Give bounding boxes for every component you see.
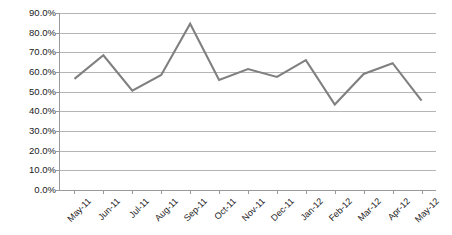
y-axis-tick-label: 70.0% <box>0 47 56 57</box>
y-axis-tick-labels: 90.0%80.0%70.0%60.0%50.0%40.0%30.0%20.0%… <box>0 0 56 200</box>
data-series-group <box>60 13 436 190</box>
x-axis-tick-label: May-11 <box>2 196 94 235</box>
y-axis-tick-label: 50.0% <box>0 87 56 97</box>
series-line-1 <box>74 24 421 105</box>
y-axis-tick-label: 90.0% <box>0 8 56 18</box>
y-axis-tick-label: 60.0% <box>0 67 56 77</box>
plot-area <box>60 13 436 190</box>
line-chart: 90.0%80.0%70.0%60.0%50.0%40.0%30.0%20.0%… <box>0 0 452 235</box>
y-axis-tick-label: 30.0% <box>0 126 56 136</box>
y-axis-tick-label: 10.0% <box>0 165 56 175</box>
y-axis-tick-label: 20.0% <box>0 146 56 156</box>
y-axis-tick-label: 40.0% <box>0 106 56 116</box>
y-axis-tick-label: 80.0% <box>0 28 56 38</box>
x-axis-tick-labels: May-11Jun-11Jul-11Aug-11Sep-11Oct-11Nov-… <box>0 190 452 235</box>
